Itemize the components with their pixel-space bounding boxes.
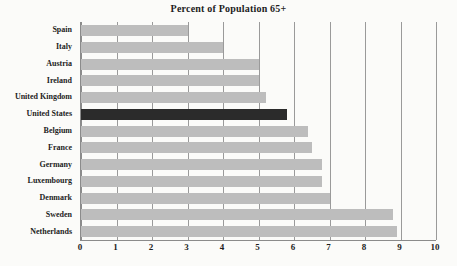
bar-row <box>81 89 436 106</box>
y-axis-label-austria: Austria <box>46 60 72 68</box>
bar-germany <box>81 159 322 170</box>
x-tick-label-10: 10 <box>425 243 445 252</box>
y-axis-label-united-kingdom: United Kingdom <box>15 93 72 101</box>
y-axis-label-united-states: United States <box>26 110 72 118</box>
bar-row <box>81 106 436 123</box>
y-axis-category-labels: SpainItalyAustriaIrelandUnited KingdomUn… <box>0 22 76 240</box>
y-axis-label-italy: Italy <box>56 43 72 51</box>
bar-france <box>81 142 312 153</box>
bar-united-states <box>81 109 287 120</box>
bar-row <box>81 56 436 73</box>
bar-austria <box>81 59 259 70</box>
bar-italy <box>81 42 223 53</box>
x-tick-label-6: 6 <box>283 243 303 252</box>
y-label-row: Austria <box>0 56 76 73</box>
y-label-row: France <box>0 139 76 156</box>
y-axis-label-netherlands: Netherlands <box>30 228 72 236</box>
bar-luxembourg <box>81 176 322 187</box>
y-axis-label-france: France <box>48 144 72 152</box>
bar-spain <box>81 25 188 36</box>
y-label-row: Sweden <box>0 206 76 223</box>
y-label-row: Luxembourg <box>0 173 76 190</box>
bar-row <box>81 206 436 223</box>
x-tick-label-2: 2 <box>141 243 161 252</box>
bar-belgium <box>81 126 308 137</box>
x-tick-label-7: 7 <box>319 243 339 252</box>
x-axis-tick-labels: 012345678910 <box>0 243 457 259</box>
x-tick-label-5: 5 <box>248 243 268 252</box>
y-label-row: Netherlands <box>0 223 76 240</box>
x-tick-label-3: 3 <box>177 243 197 252</box>
x-tick-label-4: 4 <box>212 243 232 252</box>
bar-united-kingdom <box>81 92 266 103</box>
y-label-row: Belgium <box>0 123 76 140</box>
bars-container <box>81 22 436 240</box>
bar-row <box>81 72 436 89</box>
y-label-row: Spain <box>0 22 76 39</box>
chart-title: Percent of Population 65+ <box>0 3 457 14</box>
bar-row <box>81 173 436 190</box>
y-label-row: Germany <box>0 156 76 173</box>
y-axis-label-luxembourg: Luxembourg <box>28 177 72 185</box>
bar-row <box>81 22 436 39</box>
x-tick-label-8: 8 <box>354 243 374 252</box>
bar-row <box>81 139 436 156</box>
y-axis-label-belgium: Belgium <box>44 127 72 135</box>
gridline-10 <box>436 22 437 240</box>
plot-area <box>80 22 436 241</box>
y-label-row: Denmark <box>0 190 76 207</box>
y-label-row: Italy <box>0 39 76 56</box>
bar-row <box>81 123 436 140</box>
y-axis-label-spain: Spain <box>52 26 72 34</box>
x-tick-label-1: 1 <box>106 243 126 252</box>
bar-row <box>81 156 436 173</box>
y-label-row: United Kingdom <box>0 89 76 106</box>
y-axis-label-denmark: Denmark <box>40 194 72 202</box>
bar-sweden <box>81 209 393 220</box>
bar-row <box>81 223 436 240</box>
bar-denmark <box>81 193 330 204</box>
y-label-row: Ireland <box>0 72 76 89</box>
bar-netherlands <box>81 226 397 237</box>
x-tick-label-0: 0 <box>70 243 90 252</box>
bar-row <box>81 39 436 56</box>
bar-ireland <box>81 75 259 86</box>
x-tick-label-9: 9 <box>390 243 410 252</box>
y-axis-label-ireland: Ireland <box>47 77 72 85</box>
bar-row <box>81 190 436 207</box>
bar-chart: Percent of Population 65+ SpainItalyAust… <box>0 0 457 266</box>
y-axis-label-sweden: Sweden <box>46 211 72 219</box>
y-axis-label-germany: Germany <box>40 161 72 169</box>
y-label-row: United States <box>0 106 76 123</box>
